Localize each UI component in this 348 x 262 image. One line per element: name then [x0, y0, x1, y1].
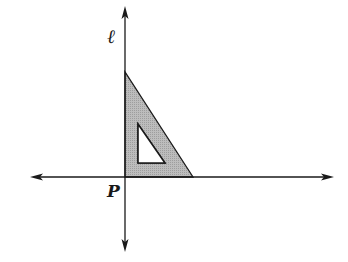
line-label: ℓ: [107, 25, 115, 47]
point-label: P: [106, 181, 121, 201]
diagram-svg: ℓ P: [0, 0, 348, 262]
diagram-canvas: ℓ P: [0, 0, 348, 262]
